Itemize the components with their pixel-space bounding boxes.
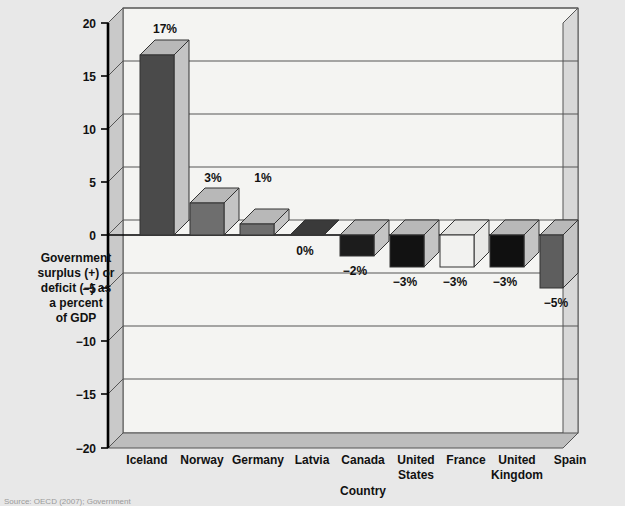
bar-norway[interactable] [190,188,239,235]
x-label-canada: Canada [341,453,385,467]
bar-spain[interactable] [540,220,578,288]
x-label-france: France [446,453,486,467]
y-tick-label: 15 [83,70,97,84]
bar-front-face [240,224,274,235]
bar-front-face [140,55,174,235]
data-label-united-states: −3% [393,275,418,289]
x-label-spain: Spain [554,453,587,467]
y-tick-label: 0 [89,229,96,243]
bar-front-face [190,203,224,235]
x-label-iceland: Iceland [126,453,167,467]
x-tick-labels: Iceland Norway Germany Latvia Canada Uni… [126,453,586,482]
x-label-united-kingdom-line2: Kingdom [491,468,543,482]
source-note: Source: OECD (2007); Government [4,497,131,506]
y-axis-title-line4: a percent [49,296,102,310]
x-label-norway: Norway [180,453,224,467]
y-tick-label: −15 [76,388,97,402]
x-label-united-states-line2: States [398,468,434,482]
chart-figure: 20 15 10 5 0 −5 −10 −15 −20 17% 3% 1% 0%… [0,0,625,506]
bar-france[interactable] [440,220,489,267]
x-axis-title: Country [340,484,386,498]
data-label-france: −3% [443,275,468,289]
x-label-united-states-line1: United [397,453,434,467]
y-tick-labels: 20 15 10 5 0 −5 −10 −15 −20 [76,17,97,456]
bar-united-states[interactable] [390,220,439,267]
y-tick-label: 10 [83,123,97,137]
bar-chart-svg: 20 15 10 5 0 −5 −10 −15 −20 17% 3% 1% 0%… [0,0,625,506]
bar-united-kingdom[interactable] [490,220,539,267]
y-axis-title-line1: Government [41,251,112,265]
y-tick-label: −10 [76,335,97,349]
floor [108,433,578,448]
data-label-united-kingdom: −3% [493,275,518,289]
y-tick-label: 20 [83,17,97,31]
y-axis-title-line3: deficit (−) as [41,281,112,295]
y-axis-title-line5: of GDP [56,311,97,325]
bar-iceland[interactable] [140,40,189,235]
data-label-iceland: 17% [153,22,177,36]
bar-front-face [390,235,424,267]
x-label-united-kingdom-line1: United [498,453,535,467]
y-axis-title-line2: surplus (+) or [37,266,114,280]
x-label-latvia: Latvia [295,453,330,467]
data-label-latvia: 0% [296,244,314,258]
bar-front-face [540,235,563,288]
bar-side-face [174,40,189,235]
data-label-canada: −2% [343,264,368,278]
bar-front-face [340,235,374,256]
y-tick-label: −20 [76,442,97,456]
data-label-germany: 1% [254,171,272,185]
bar-front-face [440,235,474,267]
data-label-spain: −5% [544,296,569,310]
bar-front-face [490,235,524,267]
y-axis-title: Government surplus (+) or deficit (−) as… [37,251,114,325]
data-label-norway: 3% [204,171,222,185]
y-tick-label: 5 [89,176,96,190]
x-label-germany: Germany [232,453,284,467]
